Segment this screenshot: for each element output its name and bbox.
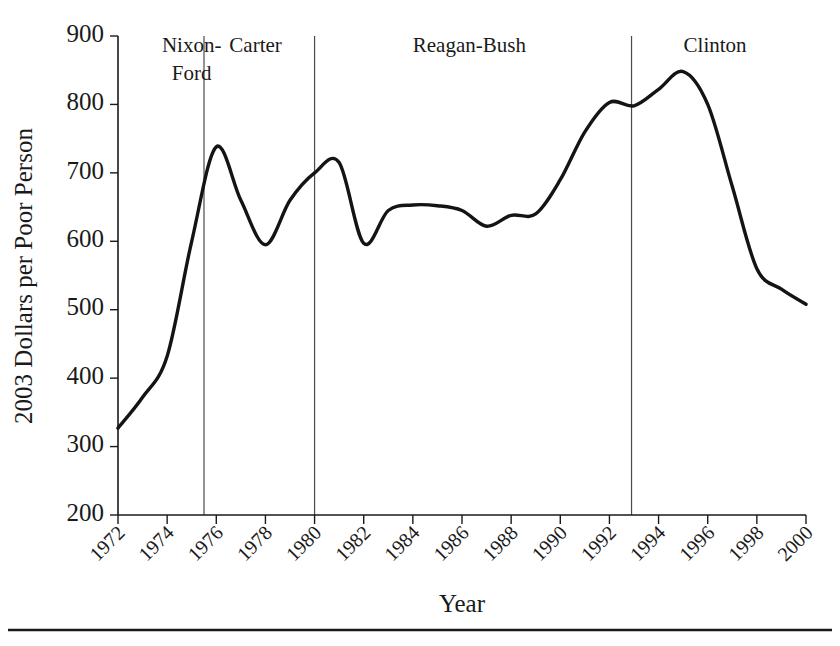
era-label: Clinton — [684, 33, 748, 57]
x-tick-label: 1990 — [527, 521, 571, 565]
y-tick-label: 400 — [67, 362, 105, 389]
era-label: Nixon- — [162, 33, 222, 57]
y-tick-label: 300 — [67, 430, 105, 457]
y-tick-label: 600 — [67, 225, 105, 252]
era-label: Ford — [172, 61, 212, 85]
y-tick-label: 500 — [67, 293, 105, 320]
era-label: Reagan-Bush — [413, 33, 527, 57]
x-tick-label: 1986 — [429, 521, 473, 565]
x-tick-label: 1978 — [232, 521, 276, 565]
x-tick-label: 1988 — [478, 521, 522, 565]
x-tick-label: 1998 — [724, 521, 768, 565]
y-axis-ticks — [110, 36, 118, 515]
x-axis-tick-labels: 1972197419761978198019821984198619881990… — [85, 521, 817, 565]
x-tick-label: 1994 — [626, 521, 670, 565]
x-tick-label: 1980 — [282, 521, 326, 565]
era-label: Carter — [229, 33, 281, 57]
line-chart: 200300400500600700800900 197219741976197… — [0, 0, 840, 646]
x-axis-title: Year — [439, 590, 486, 617]
y-tick-label: 800 — [67, 88, 105, 115]
y-tick-label: 200 — [67, 499, 105, 526]
x-tick-label: 1974 — [134, 521, 178, 565]
x-tick-label: 1976 — [183, 521, 227, 565]
x-tick-label: 1996 — [675, 521, 719, 565]
x-tick-label: 2000 — [773, 521, 817, 565]
y-axis-title: 2003 Dollars per Poor Person — [10, 128, 37, 424]
x-tick-label: 1984 — [380, 521, 424, 565]
x-tick-label: 1982 — [331, 521, 375, 565]
chart-figure: 200300400500600700800900 197219741976197… — [0, 0, 840, 646]
x-tick-label: 1972 — [85, 521, 129, 565]
y-tick-label: 900 — [67, 20, 105, 47]
data-series-line — [118, 71, 806, 428]
x-tick-label: 1992 — [576, 521, 620, 565]
y-tick-label: 700 — [67, 157, 105, 184]
era-annotation-labels: Nixon-FordCarterReagan-BushClinton — [162, 33, 747, 85]
y-axis-tick-labels: 200300400500600700800900 — [67, 20, 105, 526]
era-divider-lines — [204, 36, 632, 515]
